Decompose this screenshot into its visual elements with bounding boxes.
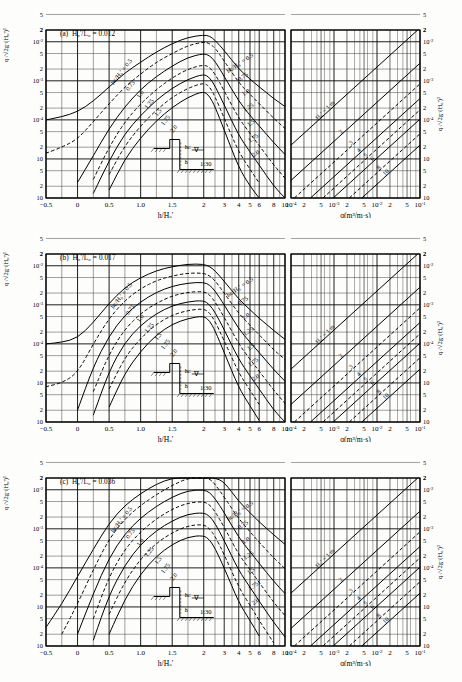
ground-hatch	[205, 393, 208, 397]
x-tick-label: 5	[405, 425, 409, 433]
nomograph-line-H0-5	[323, 334, 420, 422]
x-tick-label: 10-2	[371, 201, 383, 209]
axis-tick: 2	[423, 513, 426, 520]
panel-caption-b: (b) H₀'/L₀ = 0.017	[60, 254, 116, 262]
curve-label-rise-1.75: 1.75	[159, 338, 171, 351]
axis-tick: 5	[423, 352, 426, 359]
x-tick-label: 2	[302, 201, 306, 209]
curve-label-rise-2.0: 2.0	[168, 123, 178, 134]
x-axis-title-right: q(m³/m·s)	[340, 211, 371, 218]
ground-hatch	[181, 393, 184, 397]
x-tick-label: 1.0	[136, 649, 145, 657]
x-tick-label: 4	[237, 201, 241, 209]
x-tick-label: 5	[362, 425, 366, 433]
curve-label-rise-1.75: 1.75	[159, 114, 171, 127]
axis-tick: 10-3	[423, 301, 434, 308]
nomograph-line-H0-10	[362, 593, 420, 646]
axis-tick: 10-4	[33, 340, 44, 347]
axis-tick: 2	[423, 250, 426, 257]
y-axis-title-right: q /√2g·(H₀')³	[436, 545, 444, 579]
axis-tick: 2	[40, 591, 43, 598]
ground-hatch	[209, 393, 212, 397]
axis-tick: 2	[40, 328, 43, 335]
x-tick-label: 10-4	[285, 425, 297, 433]
axis-tick: 5	[423, 459, 426, 466]
x-tick-label: 2	[388, 649, 392, 657]
ground-hatch	[163, 372, 166, 376]
ground-hatch	[177, 393, 180, 397]
x-tick-label: 0.5	[105, 201, 114, 209]
panel-c: q /√2g·(H₀')³ 101022551010225510-410-422…	[0, 456, 462, 666]
x-tick-label: 10-1	[414, 425, 426, 433]
ground-hatch	[159, 148, 162, 152]
axis-tick: 2	[40, 104, 43, 111]
axis-tick: 2	[423, 474, 426, 481]
ground-hatch	[177, 617, 180, 621]
x-tick-label: −0.5	[40, 649, 53, 657]
nomograph-line-H0-10	[362, 369, 420, 422]
inset-label-slope: 1:30	[200, 160, 212, 167]
x-tick-label: 5	[405, 201, 409, 209]
plot-c: 101022551010225510-410-4225510-310-32255…	[0, 456, 462, 666]
axis-tick: 10	[37, 155, 43, 162]
ground-hatch	[189, 169, 192, 173]
ground-hatch	[197, 169, 200, 173]
nomograph-label-10: 10	[381, 615, 390, 624]
x-tick-label: 3	[222, 649, 226, 657]
axis-tick: 5	[40, 459, 43, 466]
figure-sheet: q /√2g·(H₀')³ 101022551010225510-410-422…	[0, 0, 462, 682]
axis-tick: 10-2	[423, 262, 434, 269]
plot-frame-right	[291, 254, 420, 422]
nomograph-label-1: H₀′ = 1 m	[314, 323, 336, 345]
y-axis-title-right: q /√2g·(H₀')³	[436, 321, 444, 355]
x-tick-label: 0.5	[105, 425, 114, 433]
axis-tick: 10	[37, 379, 43, 386]
axis-tick: 10-3	[423, 77, 434, 84]
inset-label-hc: hᴄ	[185, 367, 191, 374]
axis-tick: 5	[423, 313, 426, 320]
nomograph-line-H0-10	[362, 145, 420, 198]
x-tick-label: 1.5	[168, 425, 177, 433]
axis-tick: 2	[40, 630, 43, 637]
axis-tick: 2	[423, 552, 426, 559]
curve-label-rise-2.0: 2.0	[168, 571, 178, 582]
nomograph-line-H0-3	[294, 84, 420, 198]
axis-tick: 2	[40, 143, 43, 150]
axis-tick: 5	[40, 615, 43, 622]
nomograph-label-3: 3	[347, 587, 354, 594]
curve-label-fall-1.5: 1.5	[245, 565, 255, 575]
ground-hatch	[197, 617, 200, 621]
curve-label-rise-1.5: 1.5	[152, 331, 162, 342]
ground-hatch	[159, 596, 162, 600]
curve-label-fall-1.25: 1.25	[242, 549, 255, 561]
nomograph-label-10: 10	[381, 167, 390, 176]
axis-tick: 5	[423, 537, 426, 544]
axis-tick: 10-4	[423, 340, 434, 347]
curve-label-rise-1.0: 1.0	[135, 537, 145, 548]
curve-label-fall-1.5: 1.5	[245, 117, 255, 127]
curve-label-fall-1.5: 1.5	[245, 341, 255, 351]
inset-label-slope: 1:30	[200, 384, 212, 391]
x-tick-label: 6	[257, 425, 261, 433]
nomograph-line-H0-3	[294, 308, 420, 422]
ground-hatch	[185, 169, 188, 173]
ground-hatch	[163, 148, 166, 152]
x-tick-label: 5	[362, 201, 366, 209]
ground-hatch	[151, 596, 154, 600]
curve-label-rise-1.0: 1.0	[135, 89, 145, 100]
axis-tick: 10-3	[33, 77, 44, 84]
axis-tick: 10-3	[33, 525, 44, 532]
axis-tick: 2	[40, 367, 43, 374]
x-tick-label: 0	[76, 201, 80, 209]
ground-hatch	[189, 617, 192, 621]
axis-tick: 5	[423, 50, 426, 57]
inset-seawall-diagram: hᴄh∇1:30	[151, 139, 214, 173]
axis-tick: 2	[423, 182, 426, 189]
curve-label-fall-1.75: 1.75	[246, 132, 259, 144]
axis-tick: 10-2	[33, 262, 44, 269]
plot-b: 101022551010225510-410-4225510-310-32255…	[0, 232, 462, 442]
axis-tick: 5	[423, 615, 426, 622]
axis-tick: 5	[40, 498, 43, 505]
x-tick-label: 1.5	[168, 649, 177, 657]
x-tick-label: 2	[202, 201, 206, 209]
